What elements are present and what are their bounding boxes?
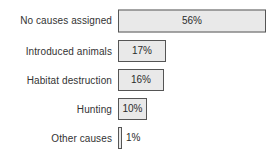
bar-track: 1%: [118, 127, 279, 149]
chart-row: Other causes 1%: [0, 127, 279, 149]
chart-row: Habitat destruction 16%: [0, 69, 279, 91]
chart-row: Introduced animals 17%: [0, 40, 279, 62]
bar-track: 17%: [118, 40, 279, 62]
bar[interactable]: 10%: [118, 98, 147, 120]
bar[interactable]: 56%: [118, 9, 266, 32]
category-label: Hunting: [0, 104, 112, 115]
bar[interactable]: 1%: [118, 127, 122, 149]
bar-value-label: 56%: [182, 16, 202, 26]
bar-track: 56%: [118, 9, 279, 32]
bar-track: 10%: [118, 98, 279, 120]
bar-track: 16%: [118, 69, 279, 91]
bar-value-label: 10%: [122, 104, 142, 114]
bar-value-label: 17%: [132, 46, 152, 56]
chart-row: No causes assigned 56%: [0, 9, 279, 32]
category-label: No causes assigned: [0, 15, 112, 26]
bar[interactable]: 17%: [118, 40, 166, 62]
chart-row: Hunting 10%: [0, 98, 279, 120]
bar-value-label: 16%: [131, 75, 151, 85]
category-label: Introduced animals: [0, 46, 112, 57]
bar[interactable]: 16%: [118, 69, 164, 91]
category-label: Habitat destruction: [0, 75, 112, 86]
bar-value-label: 1%: [126, 133, 140, 143]
category-label: Other causes: [0, 133, 112, 144]
horizontal-bar-chart: No causes assigned 56% Introduced animal…: [0, 0, 279, 168]
